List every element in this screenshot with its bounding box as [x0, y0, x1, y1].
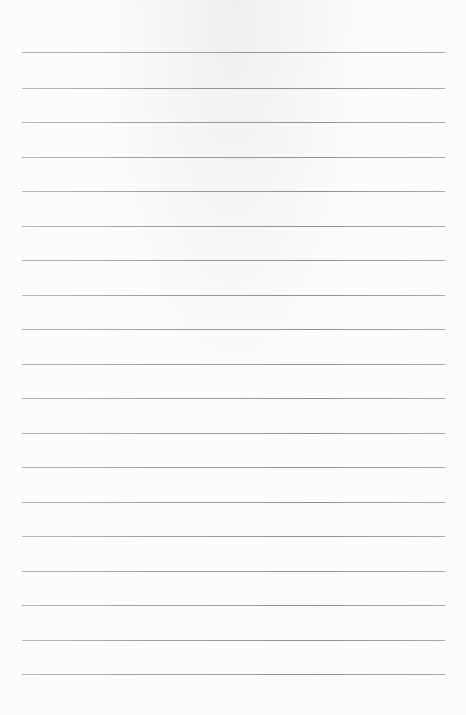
ruled-line	[22, 226, 445, 227]
ruled-line	[22, 122, 445, 123]
ruled-line	[22, 640, 445, 641]
ruled-line	[22, 364, 445, 365]
ruled-line	[22, 605, 445, 606]
ruled-line	[22, 52, 445, 53]
ruled-line	[22, 536, 445, 537]
ruled-line	[22, 157, 445, 158]
ruled-line	[22, 329, 445, 330]
ruled-line	[22, 571, 445, 572]
ruled-line	[22, 398, 445, 399]
lined-paper-page	[0, 0, 466, 715]
ruled-line	[22, 502, 445, 503]
ruled-line	[22, 295, 445, 296]
ruled-line	[22, 433, 445, 434]
ruled-line	[22, 88, 445, 89]
ruled-line	[22, 191, 445, 192]
ruled-line	[22, 674, 445, 675]
ruled-line	[22, 260, 445, 261]
ruled-line	[22, 467, 445, 468]
